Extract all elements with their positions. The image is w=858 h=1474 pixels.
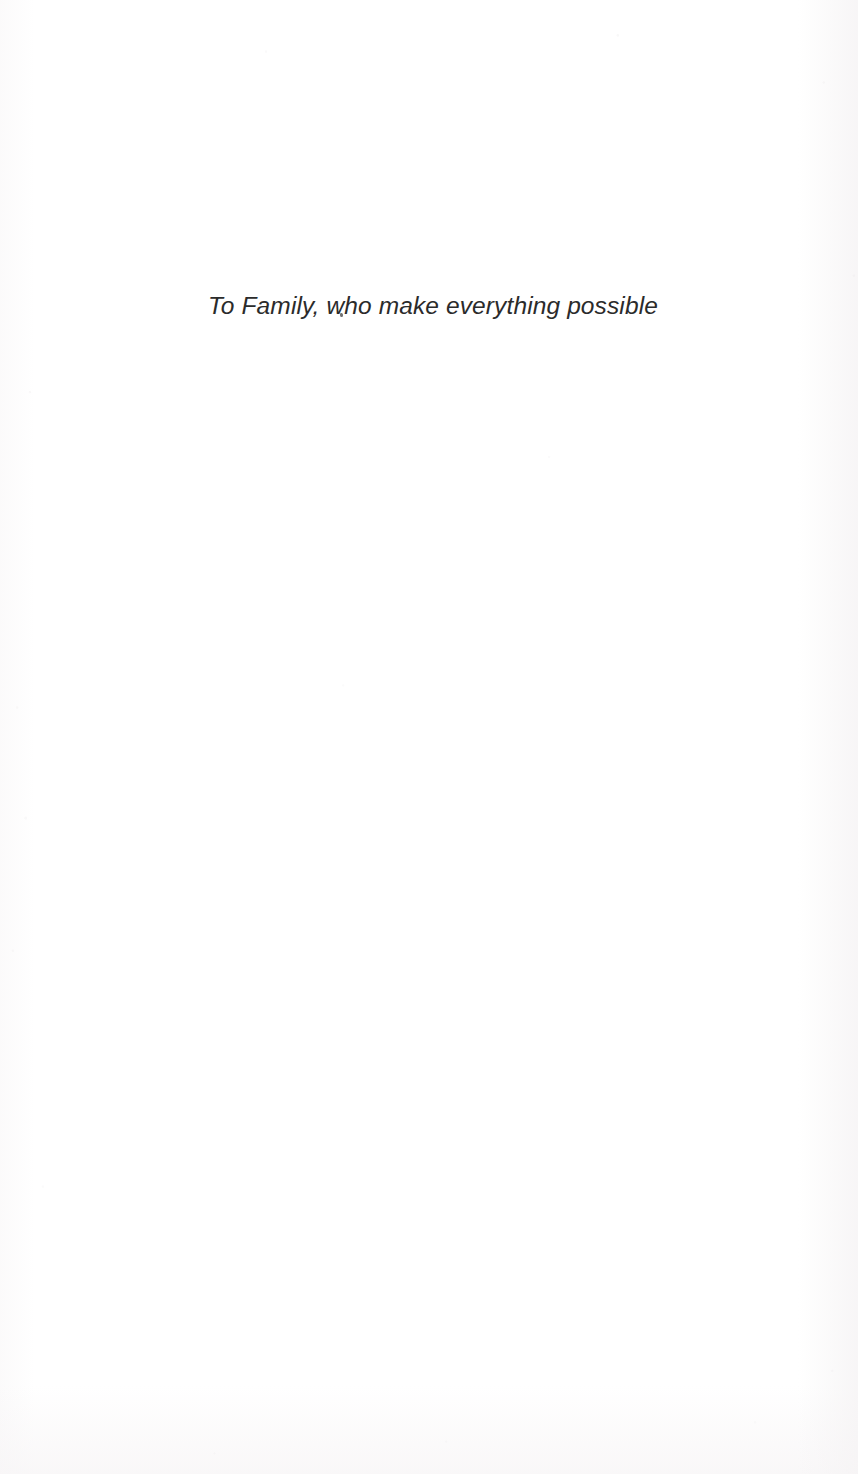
page-edge-tone bbox=[0, 0, 858, 1474]
dust-speck-artifact bbox=[340, 313, 344, 317]
scanned-page: To Family, who make everything possible bbox=[0, 0, 858, 1474]
dedication-line: To Family, who make everything possible bbox=[208, 289, 658, 323]
scan-speckle-layer bbox=[0, 0, 858, 1474]
dedication-block: To Family, who make everything possible bbox=[0, 289, 858, 323]
